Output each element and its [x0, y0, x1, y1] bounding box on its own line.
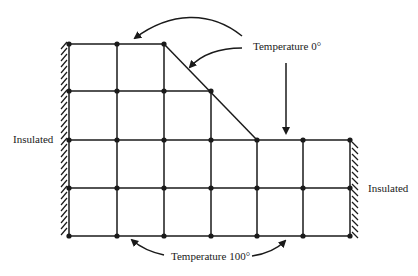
arrow-to-bottom-left-icon	[132, 240, 164, 255]
left-boundary-label: Insulated	[13, 133, 53, 145]
left-insulated-hatching	[61, 42, 67, 235]
right-boundary-label: Insulated	[368, 182, 408, 194]
diagram-canvas: Temperature 0° Temperature 100° Insulate…	[0, 0, 418, 276]
top-boundary-label: Temperature 0°	[253, 40, 321, 52]
arrow-to-diagonal-icon	[190, 48, 242, 67]
bottom-boundary-label: Temperature 100°	[171, 250, 250, 262]
right-insulated-hatching	[352, 142, 358, 238]
mesh-diagram	[0, 0, 418, 276]
arrow-to-top-edge-icon	[135, 17, 242, 38]
arrow-to-bottom-right-icon	[252, 241, 285, 256]
